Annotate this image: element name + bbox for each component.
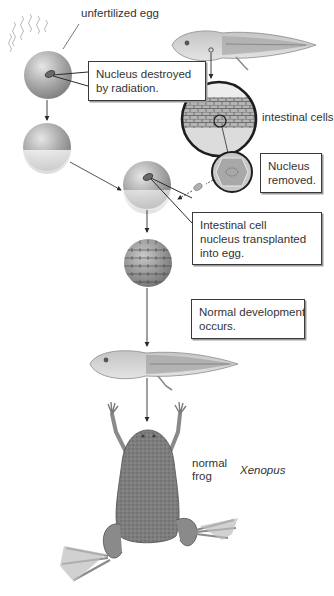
label-normal: normal [192,457,227,470]
callout-transplanted-line3: into egg. [200,246,314,260]
label-unfertilized-egg: unfertilized egg [81,7,159,20]
adult-frog [60,402,238,582]
callout-transplanted-line1: Intestinal cell [200,218,314,232]
label-species-xenopus: Xenopus [240,464,285,477]
nucleus-icon [193,182,204,192]
egg-with-transplanted-nucleus [123,161,192,223]
enucleated-egg [23,123,71,174]
callout-development-line2: occurs. [199,319,297,333]
callout-nucleus-removed-line2: removed. [268,173,314,187]
callout-nucleus-removed: Nucleus removed. [260,153,322,193]
label-intestinal-cells: intestinal cells [262,111,334,124]
callout-nucleus-removed-line1: Nucleus [268,159,314,173]
blastula [124,239,172,290]
callout-normal-development: Normal development occurs. [191,299,305,339]
callout-nucleus-destroyed-line2: by radiation. [96,81,198,95]
isolated-intestinal-cell [212,152,252,192]
callout-transplanted-line2: nucleus transplanted [200,232,314,246]
callout-development-line1: Normal development [199,305,297,319]
callout-nucleus-transplanted: Intestinal cell nucleus transplanted int… [192,212,322,265]
label-frog: frog [192,470,212,483]
callout-nucleus-destroyed: Nucleus destroyed by radiation. [88,61,206,101]
tadpole [90,351,238,390]
callout-nucleus-destroyed-line1: Nucleus destroyed [96,67,198,81]
unfertilized-egg [24,24,88,99]
radiation-waves-icon [9,14,48,52]
